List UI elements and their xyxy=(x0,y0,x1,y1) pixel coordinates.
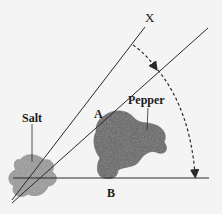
label-a: A xyxy=(94,107,103,121)
label-pepper: Pepper xyxy=(128,93,165,107)
label-salt: Salt xyxy=(22,111,42,125)
salt-pile xyxy=(9,155,56,197)
rotation-arrow-short xyxy=(133,45,155,67)
label-b: B xyxy=(107,186,115,200)
diagram-svg: X A B Salt Pepper xyxy=(0,0,222,214)
pepper-pile xyxy=(94,111,167,179)
rotation-arrow-long xyxy=(158,70,195,174)
label-x: X xyxy=(145,10,155,25)
diagram-canvas: X A B Salt Pepper xyxy=(0,0,222,214)
